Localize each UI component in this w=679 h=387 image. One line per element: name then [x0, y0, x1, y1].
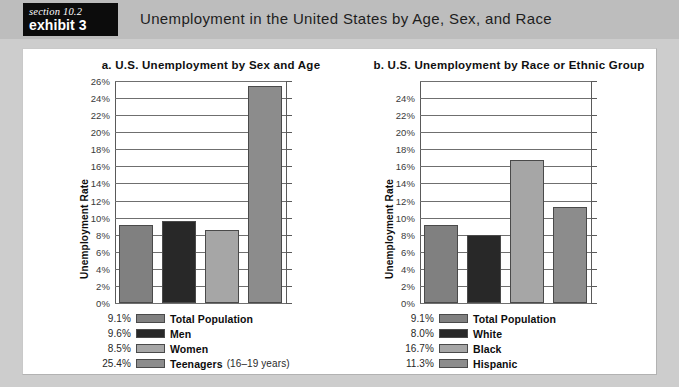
chart-a-right-tick [286, 132, 292, 133]
chart-b-right-tick [591, 252, 597, 253]
chart-b-right-tick [591, 235, 597, 236]
chart-b-ytick-label: 24% [396, 93, 415, 104]
chart-a-ytick-label: 24% [91, 93, 110, 104]
legend-swatch [439, 314, 468, 323]
chart-a-right-tick [286, 218, 292, 219]
chart-a-bar [162, 221, 196, 303]
chart-b-ytick-label: 12% [396, 195, 415, 206]
chart-a-ytick-label: 16% [91, 161, 110, 172]
exhibit-label: exhibit 3 [29, 18, 118, 33]
chart-b-right-tick [591, 81, 597, 82]
exhibit-content-frame: a. U.S. Unemployment by Sex and Age Unem… [22, 48, 657, 375]
legend-label: Total Population [473, 313, 556, 325]
chart-b-right-tick [591, 183, 597, 184]
chart-b-bars [420, 81, 591, 303]
legend-row: 16.7%Black [396, 341, 556, 356]
chart-b-bar [553, 207, 587, 303]
chart-a-right-tick [286, 269, 292, 270]
chart-a-ytick-label: 8% [96, 229, 110, 240]
chart-a-gridline [115, 303, 286, 304]
chart-b-ytick-label: 20% [396, 127, 415, 138]
legend-row: 9.6%Men [93, 326, 290, 341]
chart-a-ytick-label: 22% [91, 110, 110, 121]
chart-b-bar [510, 160, 544, 303]
chart-a-right-tick [286, 235, 292, 236]
legend-swatch [136, 359, 165, 368]
chart-a-ytick-label: 2% [96, 280, 110, 291]
chart-b-ytick-label: 0% [401, 298, 415, 309]
legend-value: 16.7% [396, 343, 439, 354]
chart-b-title: b. U.S. Unemployment by Race or Ethnic G… [363, 59, 655, 71]
legend-value: 11.3% [396, 358, 439, 369]
legend-swatch [439, 329, 468, 338]
legend-swatch [136, 314, 165, 323]
legend-value: 9.1% [396, 313, 439, 324]
legend-value: 9.6% [93, 328, 136, 339]
chart-a-right-tick [286, 166, 292, 167]
chart-a-title: a. U.S. Unemployment by Sex and Age [61, 59, 361, 71]
chart-b-right-tick [591, 303, 597, 304]
legend-label: Teenagers [170, 358, 223, 370]
chart-a-right-tick [286, 115, 292, 116]
chart-a-right-tick [286, 252, 292, 253]
chart-b-y-axis-label: Unemployment Rate [384, 179, 395, 279]
chart-a-ytick-label: 10% [91, 212, 110, 223]
chart-b-ytick-label: 6% [401, 246, 415, 257]
legend-row: 9.1%Total Population [93, 311, 290, 326]
chart-a-bars [115, 81, 286, 303]
chart-a-right-tick [286, 98, 292, 99]
legend-note: (16–19 years) [223, 358, 290, 369]
legend-swatch [136, 329, 165, 338]
chart-a-right-tick [286, 149, 292, 150]
legend-label: Black [473, 343, 502, 355]
chart-a-y-axis-label: Unemployment Rate [79, 179, 90, 279]
chart-b-right-tick [591, 149, 597, 150]
chart-b-gridline [420, 303, 591, 304]
legend-value: 8.5% [93, 343, 136, 354]
chart-b-legend: 9.1%Total Population8.0%White16.7%Black1… [396, 311, 556, 371]
legend-value: 25.4% [93, 358, 136, 369]
legend-row: 8.5%Women [93, 341, 290, 356]
legend-row: 25.4%Teenagers(16–19 years) [93, 356, 290, 371]
chart-a-legend: 9.1%Total Population9.6%Men8.5%Women25.4… [93, 311, 290, 371]
chart-a-plot: 26%24%22%20%18%16%14%12%10%8%6%4%2%0% [115, 81, 286, 303]
chart-a-bar [205, 230, 239, 303]
legend-row: 8.0%White [396, 326, 556, 341]
chart-b-ytick-label: 14% [396, 178, 415, 189]
chart-b-ytick-label: 2% [401, 280, 415, 291]
chart-b-ytick-label: 10% [396, 212, 415, 223]
chart-b-bar [467, 235, 501, 303]
chart-b-plot: 24%22%20%18%16%14%12%10%8%6%4%2%0% [420, 81, 591, 303]
chart-b-right-tick [591, 286, 597, 287]
chart-a-ytick-label: 14% [91, 178, 110, 189]
chart-b-right-tick [591, 218, 597, 219]
chart-panel-b: b. U.S. Unemployment by Race or Ethnic G… [363, 49, 655, 376]
exhibit-header-bar: section 10.2 exhibit 3 Unemployment in t… [0, 0, 679, 39]
chart-b-right-tick [591, 98, 597, 99]
chart-a-ytick-label: 4% [96, 263, 110, 274]
legend-swatch [439, 344, 468, 353]
chart-b-ytick-label: 18% [396, 144, 415, 155]
legend-swatch [439, 359, 468, 368]
legend-row: 11.3%Hispanic [396, 356, 556, 371]
chart-b-ytick-label: 4% [401, 263, 415, 274]
legend-label: Men [170, 328, 191, 340]
chart-a-right-tick [286, 303, 292, 304]
legend-label: Total Population [170, 313, 253, 325]
chart-a-ytick-label: 18% [91, 144, 110, 155]
chart-a-bar [248, 86, 282, 303]
legend-label: Women [170, 343, 208, 355]
chart-a-right-tick [286, 201, 292, 202]
legend-swatch [136, 344, 165, 353]
chart-a-right-tick [286, 286, 292, 287]
chart-a-bar [119, 225, 153, 303]
chart-a-ytick-label: 0% [96, 298, 110, 309]
chart-a-ytick-label: 26% [91, 76, 110, 87]
exhibit-title: Unemployment in the United States by Age… [140, 10, 552, 27]
chart-a-right-tick [286, 183, 292, 184]
chart-a-ytick-label: 12% [91, 195, 110, 206]
chart-a-ytick-label: 6% [96, 246, 110, 257]
chart-a-ytick-label: 20% [91, 127, 110, 138]
chart-b-ytick-label: 16% [396, 161, 415, 172]
chart-b-right-tick [591, 166, 597, 167]
